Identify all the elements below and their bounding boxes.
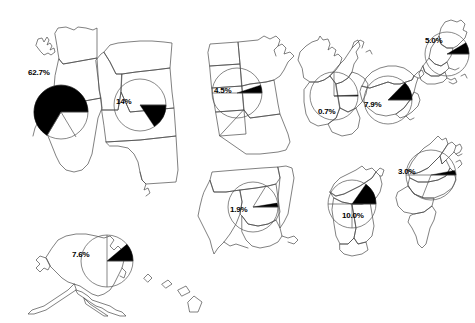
map-figure: 62.7% 14% (0, 0, 475, 323)
new-england-label: 5.0% (425, 37, 442, 45)
south-atlantic-label: 3.0% (398, 168, 415, 176)
pacific-label: 62.7% (28, 69, 50, 77)
esc-label: 10.0% (342, 212, 364, 220)
alaska-hawaii-pie[interactable] (78, 232, 136, 290)
wnc-label: 4.5% (214, 87, 231, 95)
wsc-label: 1.9% (230, 206, 247, 214)
enc-label: 0.7% (318, 108, 335, 116)
mountain-label: 14% (116, 98, 131, 106)
alaska-hawaii-label: 7.6% (72, 251, 89, 259)
pacific-pie[interactable] (29, 80, 93, 144)
esc-pie[interactable] (324, 176, 380, 232)
mid-atlantic-label: 7.9% (364, 101, 381, 109)
